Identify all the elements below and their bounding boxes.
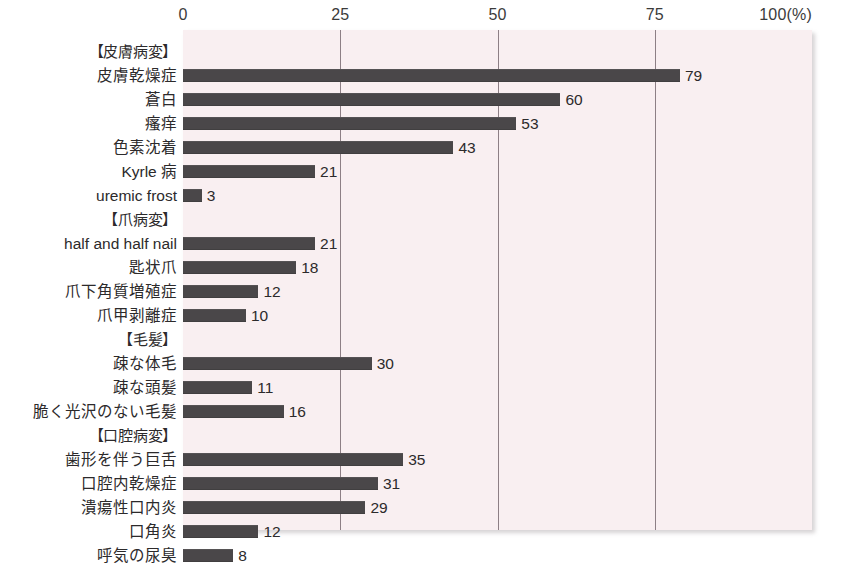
chart-row: 潰瘍性口内炎29 bbox=[0, 496, 862, 520]
x-axis-tick-labels: 0255075100(%) bbox=[0, 0, 862, 30]
category-label: 蒼白 bbox=[0, 88, 177, 112]
bar-value-label: 21 bbox=[320, 232, 337, 256]
bar-value-label: 43 bbox=[458, 136, 475, 160]
bar-value-label: 16 bbox=[289, 400, 306, 424]
bar bbox=[183, 117, 516, 130]
bar bbox=[183, 141, 453, 154]
chart-row: 【毛髪】 bbox=[0, 328, 862, 352]
bar bbox=[183, 381, 252, 394]
bar bbox=[183, 237, 315, 250]
chart-row: 爪下角質増殖症12 bbox=[0, 280, 862, 304]
category-label: 疎な体毛 bbox=[0, 352, 177, 376]
category-label: 口腔内乾燥症 bbox=[0, 472, 177, 496]
category-group-label: 【毛髪】 bbox=[0, 328, 177, 352]
bar-value-label: 3 bbox=[207, 184, 216, 208]
bar bbox=[183, 189, 202, 202]
bar-value-label: 31 bbox=[383, 472, 400, 496]
category-label: 色素沈着 bbox=[0, 136, 177, 160]
bar bbox=[183, 453, 403, 466]
chart-rows: 【皮膚病変】皮膚乾燥症79蒼白60瘙痒53色素沈着43Kyrle 病21urem… bbox=[0, 30, 862, 530]
bar bbox=[183, 93, 560, 106]
category-label: 口角炎 bbox=[0, 520, 177, 544]
category-group-label: 【皮膚病変】 bbox=[0, 40, 177, 64]
chart-row: 蒼白60 bbox=[0, 88, 862, 112]
category-label: 匙状爪 bbox=[0, 256, 177, 280]
bar-value-label: 10 bbox=[251, 304, 268, 328]
category-group-label: 【爪病変】 bbox=[0, 208, 177, 232]
chart-row: 歯形を伴う巨舌35 bbox=[0, 448, 862, 472]
category-label: 皮膚乾燥症 bbox=[0, 64, 177, 88]
bar bbox=[183, 69, 680, 82]
category-label: Kyrle 病 bbox=[0, 160, 177, 184]
chart-row: 色素沈着43 bbox=[0, 136, 862, 160]
chart-row: 爪甲剥離症10 bbox=[0, 304, 862, 328]
category-label: 歯形を伴う巨舌 bbox=[0, 448, 177, 472]
bar-value-label: 11 bbox=[257, 376, 273, 400]
bar-value-label: 21 bbox=[320, 160, 337, 184]
bar-value-label: 79 bbox=[685, 64, 702, 88]
bar-chart-figure: 0255075100(%) 【皮膚病変】皮膚乾燥症79蒼白60瘙痒53色素沈着4… bbox=[0, 0, 862, 564]
x-tick-label-0: 0 bbox=[178, 6, 187, 24]
chart-row: 疎な体毛30 bbox=[0, 352, 862, 376]
bar bbox=[183, 405, 284, 418]
x-tick-label-75: 75 bbox=[646, 6, 664, 24]
bar bbox=[183, 165, 315, 178]
chart-row: 【皮膚病変】 bbox=[0, 40, 862, 64]
category-label: 爪甲剥離症 bbox=[0, 304, 177, 328]
x-tick-label-50: 50 bbox=[488, 6, 506, 24]
category-label: 疎な頭髪 bbox=[0, 376, 177, 400]
chart-row: 口腔内乾燥症31 bbox=[0, 472, 862, 496]
category-label: 呼気の尿臭 bbox=[0, 544, 177, 564]
category-label: 脆く光沢のない毛髪 bbox=[0, 400, 177, 424]
chart-row: 口角炎12 bbox=[0, 520, 862, 544]
chart-row: 【爪病変】 bbox=[0, 208, 862, 232]
x-tick-label-25: 25 bbox=[331, 6, 349, 24]
bar-value-label: 60 bbox=[565, 88, 582, 112]
category-label: uremic frost bbox=[0, 184, 177, 208]
x-tick-label-100: 100(%) bbox=[759, 6, 812, 24]
chart-row: Kyrle 病21 bbox=[0, 160, 862, 184]
chart-row: 疎な頭髪11 bbox=[0, 376, 862, 400]
chart-row: 皮膚乾燥症79 bbox=[0, 64, 862, 88]
category-group-label: 【口腔病変】 bbox=[0, 424, 177, 448]
bar bbox=[183, 357, 372, 370]
chart-row: 瘙痒53 bbox=[0, 112, 862, 136]
bar bbox=[183, 261, 296, 274]
bar bbox=[183, 477, 378, 490]
chart-row: 匙状爪18 bbox=[0, 256, 862, 280]
category-label: 瘙痒 bbox=[0, 112, 177, 136]
bar-value-label: 30 bbox=[377, 352, 394, 376]
bar-value-label: 12 bbox=[263, 280, 280, 304]
category-label: 爪下角質増殖症 bbox=[0, 280, 177, 304]
bar-value-label: 53 bbox=[521, 112, 538, 136]
bar-value-label: 18 bbox=[301, 256, 318, 280]
chart-row: 脆く光沢のない毛髪16 bbox=[0, 400, 862, 424]
category-label: half and half nail bbox=[0, 232, 177, 256]
bar bbox=[183, 525, 258, 538]
category-label: 潰瘍性口内炎 bbox=[0, 496, 177, 520]
bar-value-label: 29 bbox=[370, 496, 387, 520]
chart-row: 【口腔病変】 bbox=[0, 424, 862, 448]
bar-value-label: 12 bbox=[263, 520, 280, 544]
chart-row: half and half nail21 bbox=[0, 232, 862, 256]
bar bbox=[183, 285, 258, 298]
bar bbox=[183, 309, 246, 322]
bar bbox=[183, 501, 365, 514]
figure-caption bbox=[183, 546, 823, 562]
chart-row: uremic frost3 bbox=[0, 184, 862, 208]
bar-value-label: 35 bbox=[408, 448, 425, 472]
